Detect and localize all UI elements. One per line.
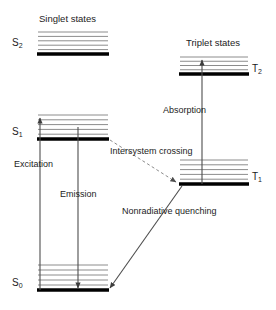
arrow-nonradiative-quenching [110,186,182,288]
process-label-intersystem-crossing: Intersystem crossing [110,146,188,157]
process-label-emission: Emission [60,190,97,199]
state-label-S1: S1 [12,127,23,137]
process-label-absorption: Absorption [163,106,206,115]
process-arrows-group [40,60,202,290]
state-label-T1: T1 [252,172,262,182]
state-label-T2: T2 [252,64,262,74]
state-label-S0: S0 [12,278,23,288]
process-label-nonradiative-quenching: Nonradiative quenching [122,206,208,217]
jablonski-diagram: Singlet states Triplet states S2S1S0T2T1… [0,0,276,310]
state-label-S2: S2 [12,38,23,48]
singlet-states-header: Singlet states [39,14,96,24]
process-label-excitation: Excitation [14,160,53,169]
triplet-states-header: Triplet states [186,38,240,48]
